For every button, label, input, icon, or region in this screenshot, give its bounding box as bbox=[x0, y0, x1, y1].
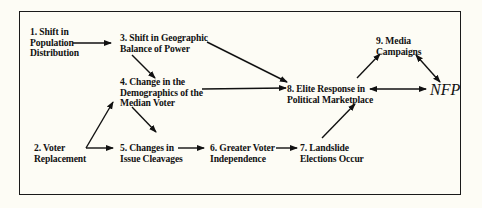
arrow-2-to-4 bbox=[86, 102, 113, 148]
node-7-line-1: 7. Landslide bbox=[300, 143, 364, 154]
node-3-line-1: 3. Shift in Geographic bbox=[120, 33, 208, 44]
arrow-4-to-8 bbox=[202, 88, 286, 89]
arrow-8-to-9 bbox=[357, 54, 380, 78]
node-3-shift-in-geographic-balance: 3. Shift in Geographic Balance of Power bbox=[120, 33, 208, 54]
node-7-line-2: Elections Occur bbox=[300, 154, 364, 165]
node-4-change-in-median-voter: 4. Change in the Demographics of the Med… bbox=[120, 77, 203, 109]
node-8-elite-response: 8. Elite Response in Political Marketpla… bbox=[287, 84, 373, 105]
nfp-label: NFP bbox=[430, 81, 460, 98]
arrow-9-to-nfp bbox=[416, 55, 440, 82]
node-9-line-2: Campaigns bbox=[376, 47, 421, 58]
node-5-changes-in-issue-cleavages: 5. Changes in Issue Cleavages bbox=[120, 143, 183, 164]
node-3-line-2: Balance of Power bbox=[120, 44, 208, 55]
node-5-line-1: 5. Changes in bbox=[120, 143, 183, 154]
node-4-line-1: 4. Change in the bbox=[120, 77, 203, 88]
node-9-line-1: 9. Media bbox=[376, 36, 421, 47]
arrow-4-to-5 bbox=[132, 107, 156, 132]
node-8-line-1: 8. Elite Response in bbox=[287, 84, 373, 95]
arrow-3-to-8 bbox=[207, 42, 287, 82]
node-2-line-2: Replacement bbox=[34, 154, 86, 165]
node-6-greater-voter-independence: 6. Greater Voter Independence bbox=[210, 143, 275, 164]
node-1-line-1: 1. Shift in bbox=[30, 27, 79, 38]
node-1-shift-in-population-distribution: 1. Shift in Population Distribution bbox=[30, 27, 79, 59]
node-6-line-1: 6. Greater Voter bbox=[210, 143, 275, 154]
node-1-line-3: Distribution bbox=[30, 48, 79, 59]
node-2-voter-replacement: 2. Voter Replacement bbox=[34, 143, 86, 164]
node-7-landslide-elections: 7. Landslide Elections Occur bbox=[300, 143, 364, 164]
node-8-line-2: Political Marketplace bbox=[287, 95, 373, 106]
node-9-media-campaigns: 9. Media Campaigns bbox=[376, 36, 421, 57]
node-2-line-1: 2. Voter bbox=[34, 143, 86, 154]
node-4-line-3: Median Voter bbox=[120, 98, 203, 109]
node-nfp: NFP bbox=[430, 82, 460, 98]
arrow-3-to-4 bbox=[132, 55, 155, 78]
arrow-7-to-8 bbox=[322, 104, 355, 138]
node-6-line-2: Independence bbox=[210, 154, 275, 165]
node-5-line-2: Issue Cleavages bbox=[120, 154, 183, 165]
